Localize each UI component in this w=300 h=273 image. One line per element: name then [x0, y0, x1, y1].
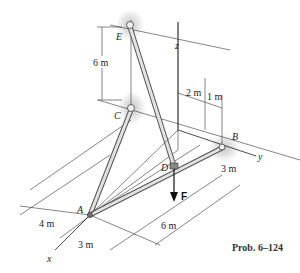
- dim-a-4m: 4 m: [39, 218, 55, 229]
- space-truss-diagram: z y x E C B D A F 6 m 2 m 1 m 3 m 4: [0, 0, 300, 273]
- joint-c: [128, 105, 135, 112]
- members: [90, 27, 222, 215]
- dim-a-3m: 3 m: [78, 239, 94, 250]
- joint-d: [170, 163, 178, 169]
- joint-a: [88, 213, 93, 218]
- joint-e: [127, 22, 134, 29]
- y-axis-label: y: [257, 151, 263, 162]
- dim-2m: 2 m: [186, 87, 202, 98]
- dim-ec-height: 6 m: [93, 57, 109, 68]
- figure-caption: Prob. 6–124: [232, 242, 283, 253]
- z-axis-label: z: [174, 40, 179, 51]
- construction-lines: [20, 20, 300, 250]
- x-axis-label: x: [46, 253, 52, 264]
- label-b: B: [232, 131, 238, 142]
- dim-1m: 1 m: [207, 91, 223, 102]
- label-a: A: [76, 204, 84, 215]
- dim-ab-6m: 6 m: [161, 220, 177, 231]
- label-e: E: [115, 31, 122, 42]
- label-d: D: [160, 162, 169, 173]
- label-c: C: [114, 110, 121, 121]
- joint-b: [219, 144, 225, 150]
- force-label: F: [181, 191, 187, 202]
- dim-b-3m: 3 m: [221, 163, 237, 174]
